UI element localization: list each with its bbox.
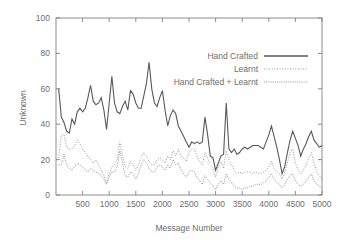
series-line-2 xyxy=(59,151,322,190)
plot-frame xyxy=(56,18,322,195)
series-line-1 xyxy=(59,135,322,183)
x-tick-label-9: 5000 xyxy=(313,199,332,209)
x-axis-label: Message Number xyxy=(155,223,222,233)
x-tick-label-0: 500 xyxy=(76,199,90,209)
x-tick-label-8: 4500 xyxy=(286,199,305,209)
y-tick-label-3: 60 xyxy=(41,84,51,94)
x-axis-ticks: 500100015002000250030003500400045005000 xyxy=(76,18,332,209)
x-tick-label-1: 1000 xyxy=(100,199,119,209)
line-chart: 500100015002000250030003500400045005000 … xyxy=(0,0,340,240)
y-tick-label-2: 40 xyxy=(41,119,51,129)
x-tick-label-6: 3500 xyxy=(233,199,252,209)
y-tick-label-1: 20 xyxy=(41,155,51,165)
x-tick-label-7: 4000 xyxy=(259,199,278,209)
chart-container: 500100015002000250030003500400045005000 … xyxy=(0,0,340,240)
legend-label-2: Hand Crafted + Learnt xyxy=(174,77,259,87)
legend-label-1: Learnt xyxy=(234,64,259,74)
x-tick-label-3: 2000 xyxy=(153,199,172,209)
y-tick-label-5: 100 xyxy=(36,13,50,23)
y-tick-label-0: 0 xyxy=(45,190,50,200)
y-axis-label: Unknown xyxy=(18,90,28,126)
x-tick-label-4: 2500 xyxy=(180,199,199,209)
x-tick-label-5: 3000 xyxy=(206,199,225,209)
y-axis-ticks: 020406080100 xyxy=(36,13,322,200)
y-tick-label-4: 80 xyxy=(41,48,51,58)
chart-legend: Hand CraftedLearntHand Crafted + Learnt xyxy=(174,51,308,87)
legend-label-0: Hand Crafted xyxy=(207,51,258,61)
x-tick-label-2: 1500 xyxy=(126,199,145,209)
